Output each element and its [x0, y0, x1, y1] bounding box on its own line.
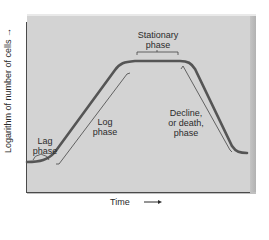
growth-curve: [27, 61, 247, 162]
x-axis-label: Time: [110, 197, 130, 207]
stationary-phase-label: Stationary phase: [128, 30, 188, 50]
lag-phase-label: Lag phase: [30, 136, 60, 156]
log-phase-label: Log phase: [90, 117, 120, 137]
y-axis-label: Logarithm of number of cells →: [3, 43, 13, 153]
decline-phase-label: Decline, or death, phase: [164, 108, 208, 138]
stationary-phase-bracket: [137, 50, 178, 55]
